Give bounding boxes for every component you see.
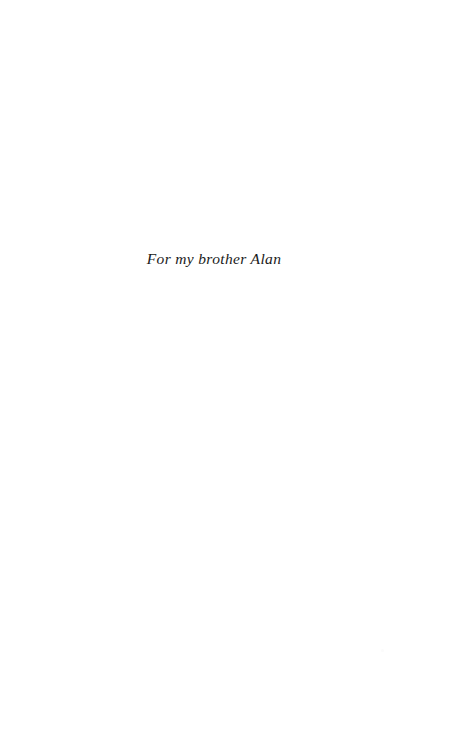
book-page: For my brother Alan bbox=[0, 0, 450, 751]
scan-artifact-speck bbox=[381, 649, 384, 652]
dedication-text: For my brother Alan bbox=[147, 250, 282, 268]
dedication-block: For my brother Alan bbox=[0, 250, 450, 268]
